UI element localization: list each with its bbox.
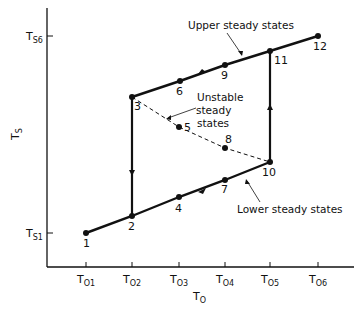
svg-text:TO4: TO4: [215, 273, 234, 288]
svg-text:10: 10: [262, 166, 276, 179]
svg-text:12: 12: [313, 40, 327, 53]
unstable-annotation-line1: Unstable: [197, 91, 243, 103]
svg-text:5: 5: [184, 121, 191, 134]
hysteresis-diagram: TO1 TO2 TO3 TO4 TO5 TO6 TO TS6 TS1 TS: [0, 0, 358, 312]
svg-text:7: 7: [221, 183, 228, 196]
svg-text:TO5: TO5: [260, 273, 279, 288]
lower-annotation-leader: [247, 181, 260, 202]
svg-text:TO3: TO3: [169, 273, 188, 288]
svg-text:TO6: TO6: [308, 273, 327, 288]
svg-text:2: 2: [128, 220, 135, 233]
svg-text:6: 6: [176, 85, 183, 98]
svg-text:3: 3: [134, 100, 141, 113]
arrow-up-icon: [267, 104, 273, 110]
y-tick-label-ts6: TS6: [25, 30, 43, 45]
leader-arrow-icon: [238, 51, 243, 56]
svg-text:TO2: TO2: [122, 273, 141, 288]
y-axis-label: TS: [9, 128, 24, 141]
unstable-annotation-line2: steady: [196, 104, 231, 116]
svg-text:1: 1: [83, 237, 90, 250]
unstable-annotation-leader: [168, 108, 196, 118]
leader-arrow-icon: [245, 179, 250, 184]
svg-text:TO1: TO1: [76, 273, 95, 288]
y-tick-label-ts1: TS1: [25, 227, 43, 242]
arrow-down-icon: [129, 170, 135, 176]
x-tick-labels: TO1 TO2 TO3 TO4 TO5 TO6: [76, 273, 327, 288]
x-axis-label: TO: [192, 290, 206, 305]
svg-text:4: 4: [175, 202, 182, 215]
leader-arrow-icon: [166, 115, 171, 120]
x-ticks: [86, 262, 318, 267]
unstable-annotation-line3: states: [197, 117, 229, 129]
svg-text:9: 9: [221, 69, 228, 82]
svg-text:11: 11: [274, 54, 288, 67]
upper-annotation: Upper steady states: [188, 19, 294, 31]
lower-annotation: Lower steady states: [237, 203, 343, 215]
svg-text:8: 8: [225, 133, 232, 146]
